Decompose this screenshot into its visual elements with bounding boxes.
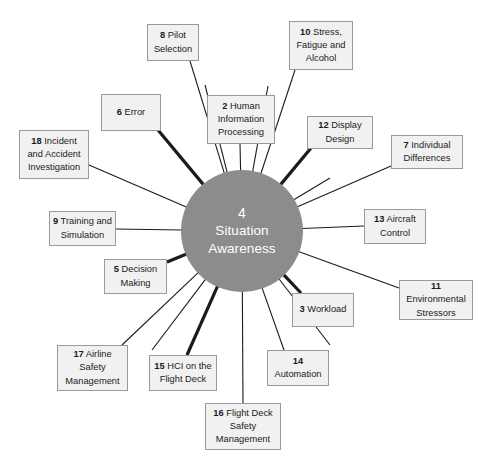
node-human-information-processing[interactable]: 2 Human Information Processing (207, 95, 275, 144)
node-number: 11 (431, 281, 441, 291)
node-workload[interactable]: 3 Workload (292, 293, 354, 327)
spoke-to-automation (262, 288, 284, 350)
spoke-to-error (158, 130, 204, 185)
node-number: 18 (31, 136, 41, 146)
node-pilot-selection[interactable]: 8 Pilot Selection (147, 24, 199, 61)
spoke-stub-right-upper (293, 178, 330, 200)
node-display-design[interactable]: 12 Display Design (307, 116, 373, 149)
node-label: 12 Display Design (311, 119, 369, 145)
node-title: Display Design (326, 120, 362, 143)
node-title: Environmental Stressors (406, 294, 465, 317)
node-label: 11 Environmental Stressors (403, 280, 469, 320)
spoke-to-incident-accident-investigation (89, 165, 187, 207)
spoke-to-workload (283, 274, 301, 293)
node-title: Automation (274, 369, 321, 379)
node-label: 10 Stress, Fatigue and Alcohol (293, 26, 349, 66)
spoke-to-training-and-simulation (116, 229, 182, 230)
hub-label: Situation Awareness (181, 222, 303, 258)
node-hci-on-the-flight-deck[interactable]: 15 HCI on the Flight Deck (149, 355, 217, 391)
node-label: 16 Flight Deck Safety Management (209, 407, 277, 447)
node-flight-deck-safety-management[interactable]: 16 Flight Deck Safety Management (205, 403, 281, 450)
node-number: 13 (374, 214, 384, 224)
node-error[interactable]: 6 Error (101, 94, 161, 131)
node-title: Aircraft Control (380, 214, 416, 237)
node-title: Workload (305, 304, 347, 314)
node-number: 14 (293, 356, 303, 366)
node-stress-fatigue-alcohol[interactable]: 10 Stress, Fatigue and Alcohol (289, 21, 353, 70)
node-title: Individual Differences (404, 140, 451, 163)
node-training-and-simulation[interactable]: 9 Training and Simulation (49, 211, 116, 246)
node-incident-accident-investigation[interactable]: 18 Incident and Accident Investigation (19, 130, 89, 179)
node-label: 14 Automation (271, 355, 325, 381)
node-number: 12 (318, 120, 328, 130)
node-number: 10 (300, 27, 310, 37)
node-automation[interactable]: 14 Automation (267, 350, 329, 386)
spoke-to-human-information-processing (240, 144, 241, 171)
node-label: 17 Airline Safety Management (61, 348, 124, 388)
spoke-to-hci-on-the-flight-deck (187, 286, 218, 355)
node-label: 3 Workload (300, 303, 347, 316)
spoke-to-individual-differences (297, 166, 391, 207)
spoke-to-flight-deck-safety-management (242, 291, 243, 403)
node-title: Training and Simulation (58, 216, 112, 239)
node-label: 7 Individual Differences (395, 139, 459, 165)
node-individual-differences[interactable]: 7 Individual Differences (391, 135, 463, 169)
node-label: 8 Pilot Selection (151, 29, 195, 55)
node-title: Flight Deck Safety Management (216, 408, 273, 444)
node-decision-making[interactable]: 5 Decision Making (104, 259, 167, 294)
node-label: 15 HCI on the Flight Deck (153, 360, 213, 386)
node-label: 18 Incident and Accident Investigation (23, 135, 85, 175)
node-title: Error (122, 107, 145, 117)
hub-number: 4 (238, 204, 246, 222)
node-label: 5 Decision Making (108, 263, 163, 289)
hub-situation-awareness[interactable]: 4 Situation Awareness (181, 170, 303, 292)
node-number: 15 (154, 361, 164, 371)
spoke-to-display-design (280, 148, 311, 185)
node-aircraft-control[interactable]: 13 Aircraft Control (364, 209, 426, 244)
node-title: Decision Making (119, 264, 157, 287)
node-label: 13 Aircraft Control (368, 213, 422, 239)
node-label: 9 Training and Simulation (53, 215, 112, 241)
node-number: 16 (213, 408, 223, 418)
node-label: 6 Error (117, 106, 145, 119)
diagram-canvas: 4 Situation Awareness 8 Pilot Selection1… (0, 0, 484, 465)
spoke-to-aircraft-control (302, 226, 364, 229)
node-airline-safety-management[interactable]: 17 Airline Safety Management (57, 345, 128, 391)
node-number: 17 (73, 349, 83, 359)
node-label: 2 Human Information Processing (211, 100, 271, 140)
node-environmental-stressors[interactable]: 11 Environmental Stressors (399, 280, 473, 320)
node-title: HCI on the Flight Deck (160, 361, 212, 384)
spoke-to-environmental-stressors (298, 251, 399, 288)
